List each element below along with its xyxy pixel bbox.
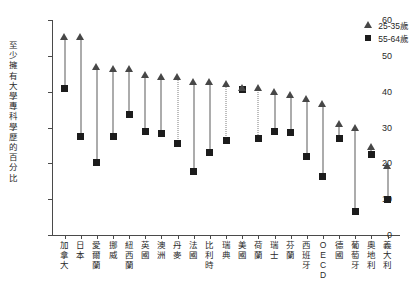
x-axis-label: 西班牙 (301, 240, 312, 270)
data-point-older (271, 128, 278, 135)
range-connector-line (129, 69, 130, 115)
x-tick-mark (258, 235, 259, 239)
chart-container: 至少擁有大學專科學歷的百分比 0102030405060 加拿大日本愛爾蘭挪威紐… (0, 0, 417, 290)
x-axis-label: 葡萄牙 (350, 240, 361, 270)
x-tick-mark (291, 235, 292, 239)
data-point-younger (302, 95, 310, 102)
data-point-older (110, 133, 117, 140)
range-connector-line (258, 88, 259, 139)
x-axis-label: 瑞士 (269, 240, 280, 260)
data-point-younger (157, 73, 165, 80)
range-connector-line (161, 77, 162, 134)
y-tick-mark (48, 92, 52, 93)
data-point-younger (109, 65, 117, 72)
data-point-older (352, 208, 359, 215)
legend-label: 55-64歲 (378, 32, 409, 44)
legend-item-old: 55-64歲 (361, 31, 409, 44)
x-axis-label: 日本 (75, 240, 86, 260)
x-tick-mark (339, 235, 340, 239)
x-tick-mark (355, 235, 356, 239)
x-axis-label: 比利時 (204, 240, 215, 270)
x-axis-label: 瑞典 (221, 240, 232, 260)
x-tick-mark (97, 235, 98, 239)
triangle-marker-icon (361, 21, 374, 28)
x-axis-label: 美國 (237, 240, 248, 260)
range-connector-line (96, 67, 97, 163)
x-tick-mark (371, 235, 372, 239)
x-tick-mark (194, 235, 195, 239)
x-axis-label: 英國 (140, 240, 151, 260)
range-connector-line (193, 82, 194, 171)
data-point-younger (335, 120, 343, 127)
data-point-older (368, 151, 375, 158)
y-tick-label: 30 (370, 123, 392, 133)
data-point-younger (60, 33, 68, 40)
x-tick-mark (81, 235, 82, 239)
x-axis-label: 挪威 (108, 240, 119, 260)
x-tick-mark (145, 235, 146, 239)
range-connector-line (355, 128, 356, 212)
data-point-older (61, 85, 68, 92)
data-point-younger (205, 78, 213, 85)
x-axis-label: OECD (317, 240, 328, 280)
x-axis-label: 奧地利 (366, 240, 377, 270)
data-point-younger (383, 162, 391, 169)
x-tick-mark (226, 235, 227, 239)
data-point-older (384, 196, 391, 203)
range-connector-line (306, 99, 307, 156)
x-axis-label: 丹麥 (172, 240, 183, 260)
x-axis-label: 德國 (334, 240, 345, 260)
y-tick-mark (48, 199, 52, 200)
y-tick-mark (48, 163, 52, 164)
data-point-younger (318, 100, 326, 107)
x-tick-mark (210, 235, 211, 239)
data-point-older (206, 149, 213, 156)
range-connector-line (64, 37, 65, 89)
y-axis-title: 至少擁有大學專科學歷的百分比 (6, 40, 20, 183)
legend-item-young: 25-35歲 (361, 18, 409, 31)
data-point-older (158, 130, 165, 137)
y-tick-mark (48, 56, 52, 57)
x-axis-label: 法國 (188, 240, 199, 260)
x-tick-mark (161, 235, 162, 239)
range-connector-line (226, 84, 227, 141)
data-point-younger (189, 78, 197, 85)
data-point-older (174, 140, 181, 147)
x-tick-mark (275, 235, 276, 239)
y-tick-mark (48, 235, 52, 236)
data-point-older (287, 129, 294, 136)
x-tick-mark (307, 235, 308, 239)
range-connector-line (387, 166, 388, 200)
y-tick-label: 50 (370, 51, 392, 61)
y-tick-mark (48, 20, 52, 21)
data-point-younger (351, 124, 359, 131)
range-connector-line (113, 69, 114, 137)
range-connector-line (145, 75, 146, 132)
x-axis-label: 義大利 (382, 240, 393, 270)
data-point-older (336, 135, 343, 142)
data-point-younger (286, 91, 294, 98)
data-point-younger (367, 143, 375, 150)
data-point-younger (222, 80, 230, 87)
x-tick-mark (113, 235, 114, 239)
data-point-younger (76, 33, 84, 40)
data-point-older (303, 153, 310, 160)
data-point-older (223, 137, 230, 144)
legend-label: 25-35歲 (378, 19, 409, 31)
data-point-older (319, 173, 326, 180)
square-marker-icon (361, 35, 374, 41)
chart-legend: 25-35歲 55-64歲 (361, 18, 409, 44)
y-tick-label: 0 (370, 230, 392, 240)
data-point-younger (270, 88, 278, 95)
x-tick-mark (388, 235, 389, 239)
x-axis-label: 荷蘭 (253, 240, 264, 260)
range-connector-line (322, 104, 323, 177)
data-point-younger (238, 84, 246, 91)
range-connector-line (177, 77, 178, 143)
data-point-older (190, 168, 197, 175)
range-connector-line (290, 95, 291, 132)
x-tick-mark (242, 235, 243, 239)
data-point-older (93, 159, 100, 166)
y-tick-label: 40 (370, 87, 392, 97)
data-point-younger (92, 63, 100, 70)
